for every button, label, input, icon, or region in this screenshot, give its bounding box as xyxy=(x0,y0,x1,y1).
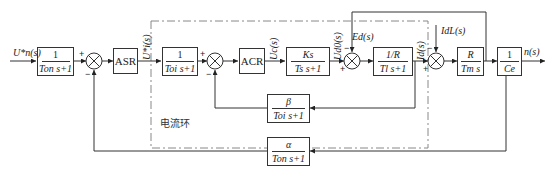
block-numerator: α xyxy=(283,139,294,150)
back-emf-block: 1 Ce xyxy=(497,47,522,76)
current-loop-caption: 电流环 xyxy=(160,115,190,130)
uc-label: Uc(s) xyxy=(268,38,279,60)
block-label: ACR xyxy=(241,55,264,67)
armature-block: 1/R Tl s+1 xyxy=(373,47,413,76)
block-numerator: R xyxy=(464,49,476,60)
sum3-plus: + xyxy=(340,64,345,74)
fraction-bar xyxy=(378,61,408,62)
sum4-plus: + xyxy=(423,64,428,74)
idl-label: IdL(s) xyxy=(441,25,465,36)
block-denominator: Tm s xyxy=(461,63,480,74)
input-filter-block: 1 Ton s+1 xyxy=(37,47,74,76)
fraction-bar xyxy=(166,61,193,62)
fraction-bar xyxy=(500,61,518,62)
current-filter-block: 1 Toi s+1 xyxy=(162,47,198,76)
sum4-minus: − xyxy=(427,43,432,53)
mechanical-block: R Tm s xyxy=(457,47,484,76)
block-denominator: Ton s+1 xyxy=(272,153,305,164)
block-denominator: Ton s+1 xyxy=(39,63,72,74)
block-label: ASR xyxy=(115,55,136,67)
sum3-minus: − xyxy=(344,43,349,53)
block-denominator: Ts s+1 xyxy=(295,63,322,74)
fraction-bar xyxy=(461,61,481,62)
ed-label: Ed(s) xyxy=(352,31,374,42)
fraction-bar xyxy=(42,61,70,62)
sum2-minus: − xyxy=(206,69,211,79)
current-feedback-block: β Toi s+1 xyxy=(267,94,310,123)
current-loop-boundary xyxy=(151,21,428,148)
block-numerator: Ks xyxy=(300,49,317,60)
acr-block: ACR xyxy=(239,48,265,74)
speed-feedback-block: α Ton s+1 xyxy=(267,137,310,166)
block-denominator: Toi s+1 xyxy=(165,63,196,74)
input-signal-label: U*n(s) xyxy=(13,47,41,58)
block-numerator: 1 xyxy=(504,49,515,60)
fraction-bar xyxy=(272,151,305,152)
ui-star-label: U*i(s) xyxy=(141,34,152,60)
sum1-plus: + xyxy=(79,49,84,59)
ud0-label: Ud0(s) xyxy=(332,32,343,60)
fraction-bar xyxy=(291,61,325,62)
control-block-diagram: 1 Ton s+1 ASR 1 Toi s+1 ACR Ks Ts s+1 1/… xyxy=(0,0,551,175)
sum1-minus: − xyxy=(85,69,90,79)
fraction-bar xyxy=(272,108,305,109)
block-numerator: β xyxy=(283,96,294,107)
block-numerator: 1 xyxy=(50,49,61,60)
block-denominator: Ce xyxy=(504,63,515,74)
block-denominator: Tl s+1 xyxy=(380,63,406,74)
block-numerator: 1/R xyxy=(383,49,403,60)
id-label: Id(s) xyxy=(415,41,426,60)
block-numerator: 1 xyxy=(175,49,186,60)
output-signal-label: n(s) xyxy=(524,46,540,57)
asr-block: ASR xyxy=(113,48,138,74)
converter-block: Ks Ts s+1 xyxy=(286,47,330,76)
sum2-plus: + xyxy=(200,49,205,59)
block-denominator: Toi s+1 xyxy=(273,110,304,121)
